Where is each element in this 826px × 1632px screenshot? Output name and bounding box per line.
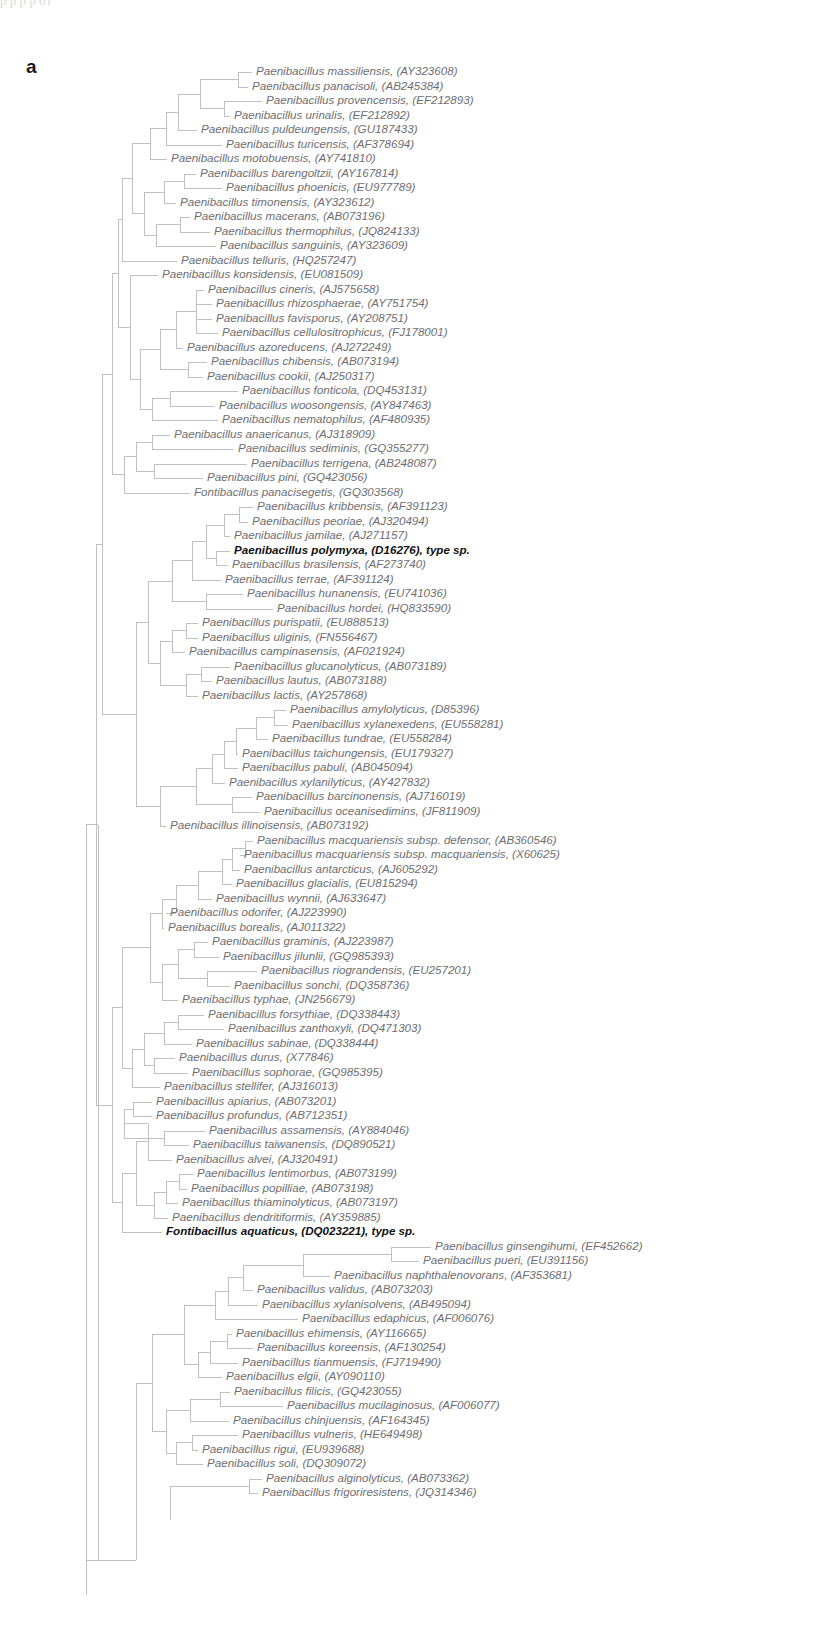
- leaf-label: Paenibacillus barcinonensis, (AJ716019): [256, 789, 466, 802]
- leaf-label: Paenibacillus thiaminolyticus, (AB073197…: [182, 1195, 398, 1208]
- leaf-label: Paenibacillus azoreducens, (AJ272249): [187, 340, 391, 353]
- leaf-label: Paenibacillus terrae, (AF391124): [225, 572, 394, 585]
- leaf-label: Paenibacillus naphthalenovorans, (AF3536…: [334, 1268, 572, 1281]
- leaf-label: Paenibacillus purispatii, (EU888513): [202, 615, 389, 628]
- leaf-label: Paenibacillus stellifer, (AJ316013): [164, 1079, 338, 1092]
- leaf-label: Paenibacillus woosongensis, (AY847463): [219, 398, 432, 411]
- leaf-label: Paenibacillus glacialis, (EU815294): [236, 876, 418, 889]
- leaf-label: Paenibacillus puldeungensis, (GU187433): [201, 122, 418, 135]
- leaf-label: Paenibacillus koreensis, (AF130254): [257, 1340, 446, 1353]
- leaf-label: Paenibacillus filicis, (GQ423055): [234, 1384, 402, 1397]
- leaf-label: Paenibacillus sophorae, (GQ985395): [192, 1065, 383, 1078]
- leaf-label: Paenibacillus chibensis, (AB073194): [211, 354, 399, 367]
- leaf-label: Paenibacillus typhae, (JN256679): [182, 992, 356, 1005]
- leaf-label: Paenibacillus pini, (GQ423056): [207, 470, 368, 483]
- leaf-label: Paenibacillus elgii, (AY090110): [226, 1369, 385, 1382]
- leaf-label: Paenibacillus alginolyticus, (AB073362): [266, 1471, 469, 1484]
- leaf-label: Paenibacillus dendritiformis, (AY359885): [172, 1210, 381, 1223]
- leaf-label: Paenibacillus forsythiae, (DQ338443): [208, 1007, 400, 1020]
- leaf-label: Paenibacillus riograndensis, (EU257201): [261, 963, 471, 976]
- leaf-label: Paenibacillus xylanisolvens, (AB495094): [262, 1297, 471, 1310]
- leaf-label: Paenibacillus glucanolyticus, (AB073189): [234, 659, 447, 672]
- leaf-label: Paenibacillus turicensis, (AF378694): [226, 137, 414, 150]
- leaf-label: Paenibacillus lactis, (AY257868): [202, 688, 368, 701]
- leaf-label: Paenibacillus validus, (AB073203): [257, 1282, 433, 1295]
- leaf-label: Paenibacillus rigui, (EU939688): [202, 1442, 365, 1455]
- leaf-label: Paenibacillus cineris, (AJ575658): [208, 282, 380, 295]
- leaf-label: Paenibacillus brasilensis, (AF273740): [232, 557, 426, 570]
- leaf-label: Paenibacillus popilliae, (AB073198): [191, 1181, 374, 1194]
- leaf-label: Paenibacillus barengoltzii, (AY167814): [200, 166, 398, 179]
- leaf-label: Paenibacillus lautus, (AB073188): [216, 673, 387, 686]
- leaf-label: Paenibacillus ehimensis, (AY116665): [236, 1326, 426, 1339]
- leaf-label: Paenibacillus sonchi, (DQ358736): [234, 978, 409, 991]
- leaf-label: Paenibacillus sabinae, (DQ338444): [196, 1036, 379, 1049]
- leaf-label: Paenibacillus panacisoli, (AB245384): [252, 79, 444, 92]
- leaf-label: Paenibacillus sediminis, (GQ355277): [238, 441, 429, 454]
- leaf-label: Paenibacillus illinoisensis, (AB073192): [170, 818, 369, 831]
- leaf-label: Paenibacillus amylolyticus, (D85396): [290, 702, 480, 715]
- leaf-label: Fontibacillus panacisegetis, (GQ303568): [194, 485, 404, 498]
- leaf-label: Paenibacillus uliginis, (FN556467): [202, 630, 377, 643]
- leaf-label: Paenibacillus provencensis, (EF212893): [266, 93, 474, 106]
- leaf-label: Paenibacillus ginsengihumi, (EF452662): [435, 1239, 643, 1252]
- leaf-label: Paenibacillus odorifer, (AJ223990): [170, 905, 347, 918]
- leaf-label: Paenibacillus thermophilus, (JQ824133): [214, 224, 420, 237]
- leaf-label: Paenibacillus xylanexedens, (EU558281): [292, 717, 504, 730]
- tree-leaf-labels: Paenibacillus massiliensis, (AY323608)Pa…: [156, 64, 643, 1498]
- leaf-label: Paenibacillus polymyxa, (D16276), type s…: [234, 543, 470, 556]
- leaf-label: Paenibacillus graminis, (AJ223987): [212, 934, 394, 947]
- leaf-label: Fontibacillus aquaticus, (DQ023221), typ…: [166, 1224, 415, 1237]
- leaf-label: Paenibacillus apiarius, (AB073201): [156, 1094, 337, 1107]
- leaf-label: Paenibacillus motobuensis, (AY741810): [171, 151, 376, 164]
- leaf-label: Paenibacillus tundrae, (EU558284): [272, 731, 452, 744]
- leaf-label: Paenibacillus frigoriresistens, (JQ31434…: [262, 1485, 477, 1498]
- leaf-label: Paenibacillus jilunlii, (GQ985393): [223, 949, 394, 962]
- leaf-label: Paenibacillus pabuli, (AB045094): [242, 760, 413, 773]
- leaf-label: Paenibacillus konsidensis, (EU081509): [162, 267, 363, 280]
- leaf-label: Paenibacillus profundus, (AB712351): [156, 1108, 348, 1121]
- leaf-label: Paenibacillus jamilae, (AJ271157): [234, 528, 408, 541]
- leaf-label: Paenibacillus urinalis, (EF212892): [234, 108, 410, 121]
- leaf-label: Paenibacillus campinasensis, (AF021924): [189, 644, 405, 657]
- leaf-label: Paenibacillus taiwanensis, (DQ890521): [193, 1137, 395, 1150]
- leaf-label: Paenibacillus hordei, (HQ833590): [277, 601, 451, 614]
- leaf-label: Paenibacillus assamensis, (AY884046): [209, 1123, 409, 1136]
- leaf-label: Paenibacillus rhizosphaerae, (AY751754): [216, 296, 429, 309]
- leaf-label: Paenibacillus mucilaginosus, (AF006077): [287, 1398, 500, 1411]
- phylogenetic-tree-figure: p p p p 01 a Paenibacillus massiliensis,…: [0, 0, 826, 1632]
- leaf-label: Paenibacillus borealis, (AJ011322): [168, 920, 346, 933]
- leaf-label: Paenibacillus anaericanus, (AJ318909): [174, 427, 375, 440]
- leaf-label: Paenibacillus macerans, (AB073196): [194, 209, 385, 222]
- leaf-label: Paenibacillus telluris, (HQ257247): [181, 253, 356, 266]
- leaf-label: Paenibacillus fonticola, (DQ453131): [242, 383, 427, 396]
- leaf-label: Paenibacillus massiliensis, (AY323608): [256, 64, 458, 77]
- leaf-label: Paenibacillus pueri, (EU391156): [423, 1253, 589, 1266]
- leaf-label: Paenibacillus kribbensis, (AF391123): [257, 499, 448, 512]
- leaf-label: Paenibacillus terrigena, (AB248087): [251, 456, 437, 469]
- leaf-label: Paenibacillus alvei, (AJ320491): [176, 1152, 338, 1165]
- leaf-label: Paenibacillus cellulositrophicus, (FJ178…: [222, 325, 448, 338]
- leaf-label: Paenibacillus xylanilyticus, (AY427832): [229, 775, 430, 788]
- leaf-label: Paenibacillus taichungensis, (EU179327): [242, 746, 454, 759]
- leaf-label: Paenibacillus lentimorbus, (AB073199): [197, 1166, 397, 1179]
- leaf-label: Paenibacillus edaphicus, (AF006076): [302, 1311, 494, 1324]
- leaf-label: Paenibacillus macquariensis subsp. macqu…: [244, 847, 560, 860]
- leaf-label: Paenibacillus soli, (DQ309072): [207, 1456, 366, 1469]
- leaf-label: Paenibacillus sanguinis, (AY323609): [220, 238, 408, 251]
- leaf-label: Paenibacillus antarcticus, (AJ605292): [244, 862, 438, 875]
- leaf-label: Paenibacillus timonensis, (AY323612): [180, 195, 375, 208]
- leaf-label: Paenibacillus tianmuensis, (FJ719490): [242, 1355, 441, 1368]
- leaf-label: Paenibacillus zanthoxyli, (DQ471303): [228, 1021, 421, 1034]
- leaf-label: Paenibacillus vulneris, (HE649498): [242, 1427, 423, 1440]
- leaf-label: Paenibacillus favisporus, (AY208751): [216, 311, 408, 324]
- leaf-label: Paenibacillus phoenicis, (EU977789): [226, 180, 416, 193]
- leaf-label: Paenibacillus nematophilus, (AF480935): [222, 412, 430, 425]
- leaf-label: Paenibacillus wynnii, (AJ633647): [216, 891, 386, 904]
- leaf-label: Paenibacillus peoriae, (AJ320494): [252, 514, 429, 527]
- tree-svg: Paenibacillus massiliensis, (AY323608)Pa…: [0, 0, 826, 1632]
- leaf-label: Paenibacillus chinjuensis, (AF164345): [233, 1413, 430, 1426]
- leaf-label: Paenibacillus macquariensis subsp. defen…: [257, 833, 557, 846]
- leaf-label: Paenibacillus cookii, (AJ250317): [207, 369, 375, 382]
- leaf-label: Paenibacillus hunanensis, (EU741036): [247, 586, 447, 599]
